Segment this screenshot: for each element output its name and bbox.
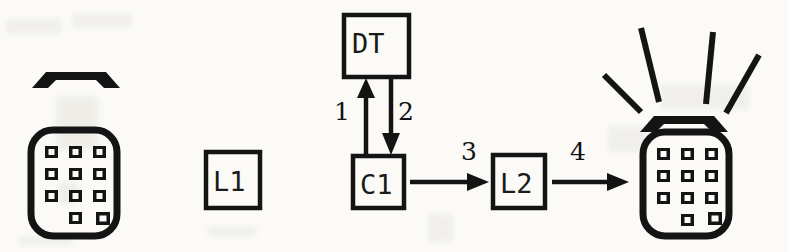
node-label-dt: DT — [352, 28, 385, 59]
handset-icon-caller — [32, 72, 120, 88]
diagram-canvas: L1 DT C1 L2 1 2 3 4 — [0, 0, 788, 252]
phone-body-callee — [643, 132, 729, 236]
telephone-icon-callee — [604, 28, 759, 236]
telephone-icon-caller — [31, 72, 120, 236]
edge-label-2: 2 — [398, 97, 414, 126]
arrow-1-c1-to-dt — [357, 78, 375, 155]
edge-label-4: 4 — [570, 137, 586, 166]
edge-label-1: 1 — [334, 97, 350, 126]
edge-label-3: 3 — [461, 137, 477, 166]
arrow-3-c1-to-l2 — [410, 173, 489, 191]
node-label-l2: L2 — [500, 168, 533, 199]
diagram-vector-layer — [0, 0, 788, 252]
ringing-lines-icon — [604, 28, 759, 113]
arrow-4-l2-to-phone — [552, 173, 629, 191]
phone-body-caller — [31, 130, 117, 236]
node-label-c1: C1 — [360, 169, 393, 200]
node-label-l1: L1 — [213, 166, 246, 197]
